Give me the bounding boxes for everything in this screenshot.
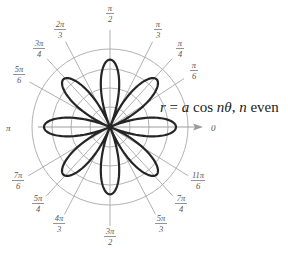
fraction-denominator: 3 — [56, 224, 61, 234]
eq-equals: = — [166, 99, 182, 115]
fraction-numerator: 3π — [34, 38, 44, 48]
fraction-denominator: 6 — [196, 181, 201, 191]
angle-label-11pi-over-6: 11π6 — [191, 170, 205, 191]
fraction-numerator: 5π — [157, 213, 166, 223]
fraction-numerator: 5π — [34, 193, 43, 203]
angle-label-5pi-over-3: 5π3 — [155, 213, 167, 234]
angle-label-pi: π — [6, 123, 11, 133]
fraction-denominator: 4 — [37, 49, 42, 59]
fraction-denominator: 2 — [108, 14, 113, 24]
fraction-denominator: 6 — [192, 71, 197, 81]
fraction-denominator: 3 — [155, 30, 160, 40]
angle-label-0: 0 — [211, 123, 216, 133]
fraction-numerator: 4π — [55, 213, 64, 223]
angle-label-pi-over-6: π6 — [190, 60, 198, 81]
fraction-numerator: π — [192, 60, 197, 70]
angle-label-pi-over-4: π4 — [176, 38, 184, 59]
fraction-numerator: 7π — [14, 170, 23, 180]
angle-label-4pi-over-3: 4π3 — [53, 213, 65, 234]
eq-even: even — [247, 99, 280, 115]
angle-label-5pi-over-4: 5π4 — [32, 193, 44, 214]
angle-label-pi-over-3: π3 — [154, 19, 162, 40]
fraction-numerator: π — [178, 38, 183, 48]
angle-label-5pi-over-6: 5π6 — [13, 64, 25, 85]
angle-label-7pi-over-6: 7π6 — [12, 170, 24, 191]
fraction-numerator: 3π — [105, 226, 115, 236]
fraction-numerator: 2π — [56, 19, 65, 29]
fraction-numerator: π — [156, 19, 161, 29]
polar-rose-diagram: 0 π π2π3π4π62π33π45π67π65π44π33π25π37π41… — [0, 0, 288, 253]
equation-label: r = a cos nθ, n even — [160, 99, 279, 115]
eq-cos: cos — [189, 99, 217, 115]
fraction-numerator: 5π — [15, 64, 24, 74]
eq-comma: , — [232, 99, 240, 115]
fraction-denominator: 3 — [158, 224, 163, 234]
fraction-numerator: 11π — [192, 170, 205, 180]
eq-a: a — [182, 99, 190, 115]
fraction-denominator: 4 — [178, 49, 183, 59]
fraction-numerator: 7π — [177, 193, 186, 203]
fraction-denominator: 4 — [179, 204, 184, 214]
fraction-denominator: 2 — [108, 237, 113, 247]
eq-n: n — [239, 99, 247, 115]
polar-axis — [38, 124, 203, 131]
fraction-denominator: 4 — [36, 204, 41, 214]
angle-label-3pi-over-4: 3π4 — [33, 38, 45, 59]
angle-label-2pi-over-3: 2π3 — [54, 19, 66, 40]
angle-label-pi-over-2: π2 — [106, 3, 114, 24]
fraction-denominator: 6 — [17, 75, 22, 85]
angle-label-3pi-over-2: 3π2 — [104, 226, 116, 247]
angle-label-7pi-over-4: 7π4 — [175, 193, 187, 214]
fraction-denominator: 6 — [16, 181, 21, 191]
fraction-denominator: 3 — [57, 30, 62, 40]
eq-ntheta: nθ — [217, 99, 233, 115]
fraction-numerator: π — [108, 3, 113, 13]
